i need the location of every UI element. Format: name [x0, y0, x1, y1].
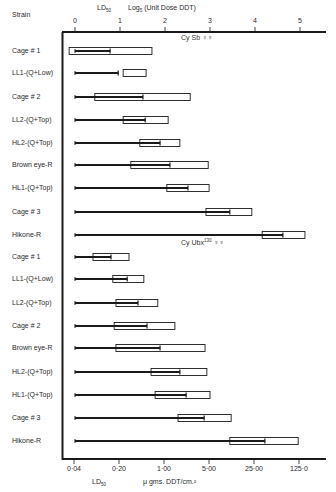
ld50-range-chart: Strain LD50 Log5 (Unit Dose DDT) 012345 …: [0, 0, 336, 492]
ld50-range-box: [123, 70, 146, 77]
plot-area: [0, 0, 336, 492]
